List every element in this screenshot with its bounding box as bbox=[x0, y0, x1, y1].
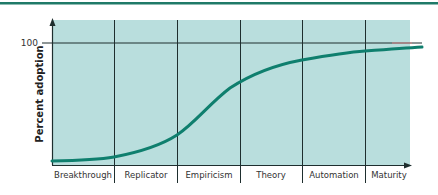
category-label-replicator: Replicator bbox=[125, 170, 168, 180]
category-label-theory: Theory bbox=[255, 170, 286, 180]
top-rule bbox=[0, 2, 438, 5]
category-label-automation: Automation bbox=[309, 170, 359, 180]
plot-background bbox=[52, 20, 410, 165]
category-label-empiricism: Empiricism bbox=[185, 170, 232, 180]
category-label-breakthrough: Breakthrough bbox=[54, 170, 112, 180]
adoption-chart: 100 Percent adoption Breakthrough Replic… bbox=[0, 0, 438, 195]
category-label-maturity: Maturity bbox=[371, 170, 406, 180]
y-axis-label: Percent adoption bbox=[34, 45, 45, 142]
